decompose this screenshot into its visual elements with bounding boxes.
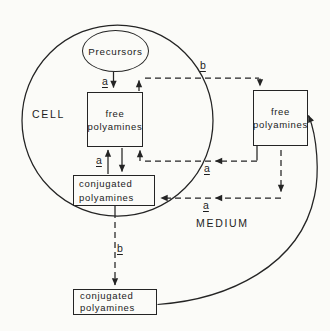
polyamine-transport-diagram: Precursors free polyamines conjugated po… xyxy=(0,0,330,331)
node-medium-free-line2: polyamines xyxy=(253,118,308,131)
cell-compartment-label: CELL xyxy=(32,108,65,120)
node-cell-free-line1: free xyxy=(105,107,124,120)
edge-label-b-export: b xyxy=(200,60,206,71)
node-cell-free-line2: polyamines xyxy=(87,120,142,133)
node-cell-free-polyamines: free polyamines xyxy=(87,92,143,147)
diagram-canvas xyxy=(0,0,330,331)
node-precursors-label: Precursors xyxy=(88,45,142,58)
node-cell-conjugated-polyamines: conjugated polyamines xyxy=(73,175,155,206)
medium-compartment-label: MEDIUM xyxy=(196,217,249,229)
node-medium-free-polyamines: free polyamines xyxy=(253,90,308,146)
node-cell-conjugated-line1: conjugated xyxy=(79,177,154,191)
node-precursors: Precursors xyxy=(82,30,149,72)
node-medium-conjugated-line1: conjugated xyxy=(80,290,156,302)
node-cell-conjugated-line2: polyamines xyxy=(79,191,154,205)
edge-label-a-precursors: a xyxy=(102,76,108,87)
node-medium-conjugated-line2: polyamines xyxy=(80,302,156,314)
edge-label-b-conjugated-export: b xyxy=(117,243,123,254)
node-medium-free-line1: free xyxy=(271,105,290,118)
edge-label-a-uptake-conjugated: a xyxy=(203,200,209,211)
node-medium-conjugated-polyamines: conjugated polyamines xyxy=(73,289,157,315)
edge-label-a-free-conjugated: a xyxy=(96,155,102,166)
edge-label-a-uptake-free: a xyxy=(204,163,210,174)
